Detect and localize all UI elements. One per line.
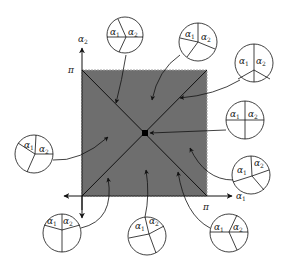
x-tick-pi: π [202, 202, 210, 212]
configuration-space-diagram: α2 α1 π π α1 α2 α1 α2 α1 α2 α1 α2 [0, 0, 287, 265]
circle-bottom-left: α1 α2 [43, 214, 81, 252]
circle-right-center: α1 α2 [226, 101, 264, 139]
circle-bottom-mid: α1 α2 [128, 216, 166, 255]
circle-bottom-right: α1 α2 [210, 214, 248, 252]
circle-top-left: α1 α2 [107, 17, 143, 53]
svg-text:α2: α2 [149, 216, 159, 227]
circle-top-right: α1 α2 [235, 44, 273, 82]
circle-left: α1 α2 [15, 135, 53, 173]
y-axis-label: α2 [78, 34, 88, 45]
circle-top-mid: α1 α2 [179, 23, 217, 61]
center-point [142, 130, 148, 136]
circle-right-lower: α1 α2 [232, 156, 270, 194]
y-tick-pi: π [67, 65, 75, 75]
